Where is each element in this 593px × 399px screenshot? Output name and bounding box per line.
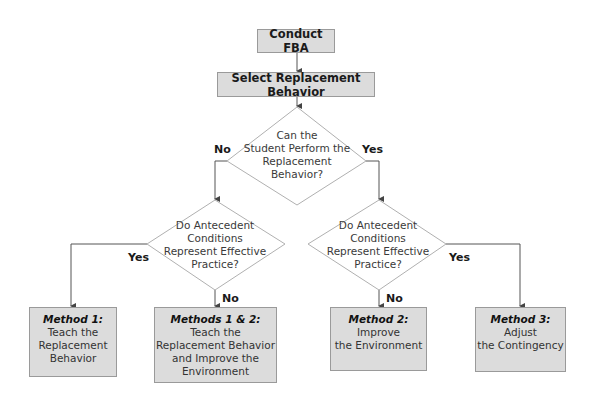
method-2-desc: Improve the Environment (335, 326, 423, 352)
methods-1-2-box: Methods 1 & 2: Teach the Replacement Beh… (154, 307, 277, 383)
arrow-no-branch (215, 161, 227, 199)
conduct-fba-box: Conduct FBA (257, 29, 335, 53)
method-3-desc: Adjust the Contingency (477, 326, 563, 352)
method-1-box: Method 1: Teach the Replacement Behavior (29, 307, 117, 377)
method-1-title: Method 1: (43, 313, 103, 326)
decision-right-text: Do Antecedent Conditions Represent Effec… (318, 219, 438, 271)
edge-label-right-yes: Yes (449, 251, 470, 264)
method-3-title: Method 3: (491, 313, 551, 326)
edge-label-no: No (214, 143, 231, 156)
decision-perform-text: Can the Student Perform the Replacement … (237, 129, 357, 181)
conduct-fba-label: Conduct FBA (258, 27, 334, 55)
select-replacement-label: Select Replacement Behavior (218, 71, 374, 99)
method-2-box: Method 2: Improve the Environment (330, 307, 427, 371)
method-3-box: Method 3: Adjust the Contingency (475, 307, 566, 372)
method-2-title: Method 2: (349, 313, 409, 326)
edge-label-left-no: No (222, 292, 239, 305)
edge-label-left-yes: Yes (128, 251, 149, 264)
edge-label-right-no: No (386, 292, 403, 305)
methods-1-2-desc: Teach the Replacement Behavior and Impro… (156, 326, 275, 378)
method-1-desc: Teach the Replacement Behavior (39, 326, 108, 365)
select-replacement-box: Select Replacement Behavior (217, 72, 375, 97)
methods-1-2-title: Methods 1 & 2: (171, 313, 261, 326)
edge-label-yes: Yes (362, 143, 383, 156)
decision-left-text: Do Antecedent Conditions Represent Effec… (155, 219, 275, 271)
arrow-yes-branch (366, 161, 379, 199)
